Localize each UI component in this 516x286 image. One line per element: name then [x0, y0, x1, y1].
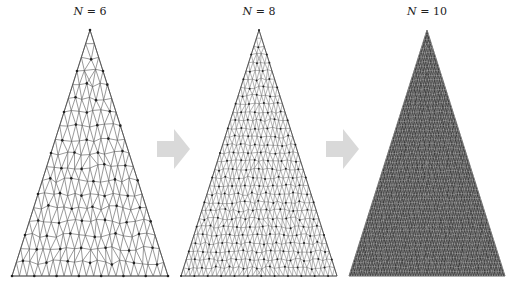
triangle-mesh-n6 — [11, 29, 170, 278]
refine-arrow-1 — [157, 129, 190, 169]
triangle-mesh-n8 — [180, 29, 337, 277]
mesh-refinement-diagram — [0, 0, 516, 286]
triangle-mesh-n10 — [349, 30, 505, 276]
refine-arrow-2 — [326, 129, 359, 169]
